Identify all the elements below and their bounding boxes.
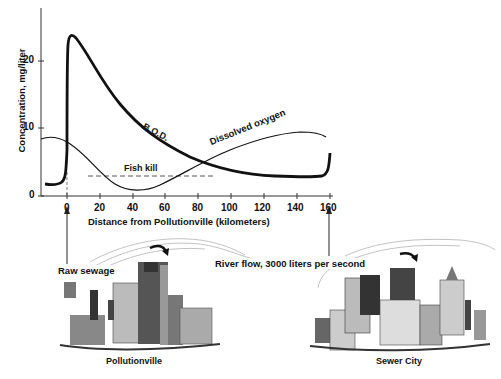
x-tick-label: 120 [254,202,271,213]
x-tick-label: 160 [320,202,337,213]
x-tick-label: 100 [221,202,238,213]
y-tick-label: 0 [29,189,35,200]
fish-kill-label: Fish kill [124,163,158,173]
sewer-city-label: Sewer City [376,356,422,366]
dissolved-oxygen-curve [41,132,326,190]
x-tick-label: 60 [159,202,170,213]
x-tick-label: 40 [127,202,138,213]
river-flow-label: River flow, 3000 liters per second [215,258,365,269]
x-tick-label: 0 [64,202,70,213]
bod-curve [45,35,330,184]
y-tick-label: 20 [23,54,34,65]
x-tick-label: 20 [94,202,105,213]
y-tick-label: 10 [23,121,34,132]
raw-sewage-label: Raw sewage [58,265,115,276]
x-tick-label: 140 [287,202,304,213]
x-tick-label: 80 [192,202,203,213]
pollutionville-label: Pollutionville [106,356,162,366]
sewer-city-illustration [310,266,490,350]
chart-svg [0,0,501,379]
x-axis-label: Distance from Pollutionville (kilometers… [88,216,270,227]
